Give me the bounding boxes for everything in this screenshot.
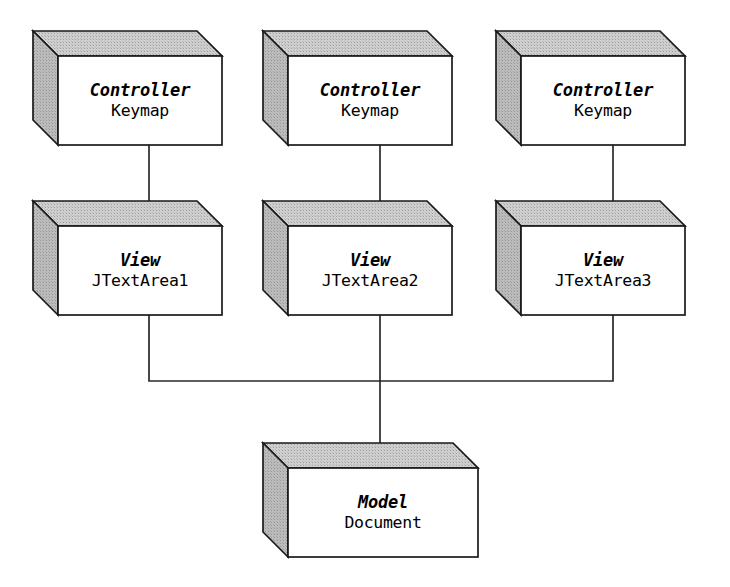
node-front-face <box>58 56 222 145</box>
node-layer <box>33 31 685 557</box>
node-front-face <box>288 468 478 557</box>
node-controller1 <box>33 31 222 145</box>
connector-view3-to-model <box>380 315 613 381</box>
node-front-face <box>58 226 222 315</box>
node-top-face <box>33 201 222 226</box>
diagram-canvas <box>0 0 730 587</box>
node-front-face <box>288 226 452 315</box>
node-view3 <box>496 201 685 315</box>
node-top-face <box>496 31 685 56</box>
node-top-face <box>263 201 452 226</box>
node-front-face <box>288 56 452 145</box>
node-model <box>263 443 478 557</box>
node-controller2 <box>263 31 452 145</box>
node-top-face <box>496 201 685 226</box>
connector-view1-to-model <box>149 315 380 381</box>
mvc-diagram: ControllerKeymapControllerKeymapControll… <box>0 0 730 587</box>
node-front-face <box>521 226 685 315</box>
node-front-face <box>521 56 685 145</box>
node-view2 <box>263 201 452 315</box>
node-top-face <box>263 443 478 468</box>
node-view1 <box>33 201 222 315</box>
node-top-face <box>33 31 222 56</box>
node-top-face <box>263 31 452 56</box>
node-controller3 <box>496 31 685 145</box>
